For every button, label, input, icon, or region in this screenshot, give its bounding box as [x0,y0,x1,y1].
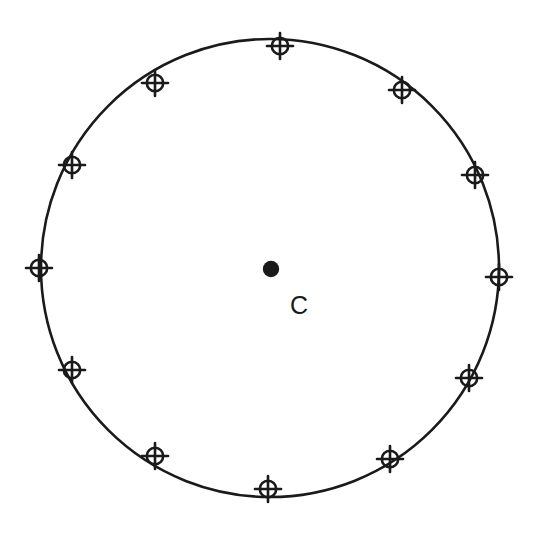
circle-diagram: C [0,0,540,533]
center-point-label: C [290,291,308,319]
center-point-dot [263,261,279,277]
figure-canvas: C [0,0,540,533]
